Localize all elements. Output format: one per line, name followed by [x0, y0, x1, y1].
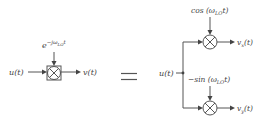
left-lo-arrowhead [52, 61, 57, 66]
upper-branch: cos (ωLOt) vx(t) [183, 6, 253, 49]
left-output-label: v(t) [83, 68, 97, 77]
lower-lo-label: −sin (ωLOt) [188, 75, 230, 85]
left-complex-mixer: e−jωLOt u(t) v(t) [9, 39, 97, 80]
upper-output-arrowhead [230, 40, 235, 45]
left-lo-label: e−jωLOt [42, 39, 66, 50]
lower-output-arrowhead [230, 106, 235, 111]
multiplier-circle-icon [203, 101, 217, 115]
multiplier-circle-icon [203, 35, 217, 49]
left-input-arrowhead [42, 70, 47, 75]
multiplier-box-icon [47, 66, 61, 80]
upper-input-arrowhead [198, 40, 203, 45]
lower-branch: −sin (ωLOt) vy(t) [183, 75, 253, 115]
upper-lo-label: cos (ωLOt) [191, 6, 228, 16]
upper-lo-arrowhead [208, 30, 213, 35]
left-input-label: u(t) [9, 68, 24, 77]
lower-input-arrowhead [198, 106, 203, 111]
right-iq-mixer: u(t) cos (ωLOt) vx(t) [159, 6, 253, 115]
lower-lo-arrowhead [208, 96, 213, 101]
right-input-label: u(t) [159, 69, 174, 78]
left-output-arrowhead [76, 70, 81, 75]
complex-mixer-equivalence-diagram: e−jωLOt u(t) v(t) u(t) [0, 0, 269, 126]
lower-output-label: vy(t) [237, 104, 253, 115]
upper-output-label: vx(t) [237, 38, 253, 48]
equals-sign [121, 74, 137, 80]
